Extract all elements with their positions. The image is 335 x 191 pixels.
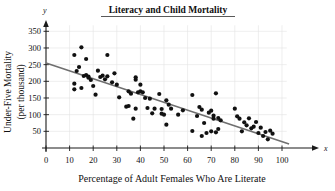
data-point [211,117,215,121]
data-point [117,95,121,99]
x-tick-label: 90 [254,155,263,165]
data-point [129,92,133,96]
x-tick-label: 70 [207,155,216,165]
data-point [72,53,76,57]
chart-title-group: Literacy and Child Mortality [101,5,235,17]
data-point [263,130,267,134]
data-point [233,107,237,111]
data-point [152,107,156,111]
data-point [259,126,263,130]
x-axis-arrowhead [312,145,319,151]
y-tick-label: 50 [33,126,42,136]
data-point [105,53,109,57]
data-point [75,69,79,73]
data-point [148,97,152,101]
data-point [164,123,168,127]
data-point [237,117,241,121]
data-point [270,132,274,136]
data-point [134,107,138,111]
data-point [145,106,149,110]
data-point [162,113,166,117]
data-point [245,123,249,127]
data-point [105,74,109,78]
data-point [204,131,208,135]
x-tick-label: 0 [44,155,48,165]
data-point [72,87,76,91]
data-point [190,129,194,133]
data-point [112,71,116,75]
data-point [200,108,204,112]
data-point [141,90,145,94]
chart-figure: Literacy and Child Mortality Under-Five … [0,0,335,191]
x-tick-label: 10 [65,155,74,165]
data-point [89,78,93,82]
data-point [190,93,194,97]
data-point [169,107,173,111]
chart-title: Literacy and Child Mortality [109,5,228,15]
data-point [164,98,168,102]
data-point [134,78,138,82]
y-tick-label: 350 [28,26,41,36]
y-axis-title-line2: (per thousand) [16,64,27,119]
data-point [115,83,119,87]
data-point [247,116,251,120]
y-axis-symbol: y [42,6,47,15]
data-point [261,134,265,138]
x-tick-label: 60 [183,155,192,165]
data-point [219,118,223,122]
data-point [216,127,220,131]
data-point [79,45,83,49]
y-axis-arrowhead [43,20,49,27]
data-point [150,111,154,115]
data-point [214,91,218,95]
data-point [176,113,180,117]
x-tick-label: 100 [276,155,289,165]
data-point [266,137,270,141]
y-tick-label: 200 [28,76,41,86]
data-point [157,92,161,96]
data-point [127,104,131,108]
data-point [254,120,258,124]
y-tick-label: 300 [28,43,41,53]
data-point [160,107,164,111]
data-point [72,82,76,86]
data-point [240,129,244,133]
data-point [200,134,204,138]
data-point [84,57,88,61]
data-point [96,69,100,73]
y-axis-title-line1: Under-Five Mortality [3,51,13,133]
data-point [256,131,260,135]
data-point [252,125,256,129]
data-point [91,84,95,88]
y-tick-label: 250 [28,60,41,70]
data-point [79,86,83,90]
data-point [143,96,147,100]
scatter-plot-svg: Literacy and Child Mortality Under-Five … [0,0,335,191]
x-tick-label: 30 [113,155,122,165]
y-tick-label: 150 [28,93,41,103]
data-point [167,103,171,107]
data-point [195,114,199,118]
data-points-group [72,45,274,141]
data-point [209,109,213,113]
x-tick-label: 80 [231,155,240,165]
data-point [131,117,135,121]
y-axis-title-group: Under-Five Mortality (per thousand) [3,51,27,133]
x-axis-caption: Percentage of Adult Females Who Are Lite… [78,173,266,184]
data-point [202,121,206,125]
x-tick-label: 20 [89,155,98,165]
data-point [77,65,81,69]
data-point [181,108,185,112]
y-tick-label: 100 [28,110,41,120]
data-point [101,74,105,78]
x-axis-symbol: x [323,144,328,153]
x-tick-label: 40 [136,155,145,165]
axes-group: x y [42,6,328,153]
data-point [209,129,213,133]
data-point [110,80,114,84]
data-point [138,83,142,87]
x-tick-label: 50 [160,155,169,165]
data-point [93,93,97,97]
